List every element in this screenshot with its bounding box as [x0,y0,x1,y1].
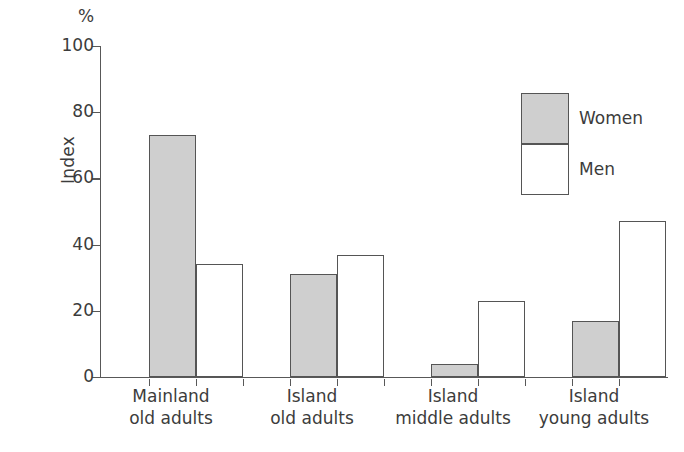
x-tick [525,379,526,386]
y-axis-unit-label: % [78,6,94,26]
x-tick [384,379,385,386]
y-tick-label-100: 100 [62,35,94,55]
x-category-label-line1: Island [378,386,528,408]
x-category-label-line1: Island [519,386,669,408]
x-category-label-line1: Island [237,386,387,408]
x-tick [337,379,338,386]
legend-label-women: Women [579,108,643,128]
x-category-label-island-old-adults: Island old adults [237,386,387,430]
legend-label-men: Men [579,159,615,179]
bar-women-island-old-adults [290,274,337,377]
x-tick [149,379,150,386]
y-tick-label-60: 60 [72,167,94,187]
x-category-label-line2: young adults [519,408,669,430]
legend-swatch-women [521,93,569,144]
y-tick-label-20: 20 [72,300,94,320]
bar-women-island-young-adults [572,321,619,377]
legend-swatch-men [521,144,569,195]
x-category-label-mainland-old-adults: Mainland old adults [96,386,246,430]
bar-men-island-old-adults [337,255,384,377]
x-tick [478,379,479,386]
x-tick [431,379,432,386]
bar-women-island-middle-adults [431,364,478,377]
chart-figure: % Index 100 80 60 40 20 0 [0,0,684,452]
y-axis-line [100,46,101,377]
x-tick [243,379,244,386]
x-tick [290,379,291,386]
y-tick-label-0: 0 [83,366,94,386]
x-tick [196,379,197,386]
x-tick [572,379,573,386]
y-tick-label-40: 40 [72,234,94,254]
bar-men-mainland-old-adults [196,264,243,377]
bar-men-island-young-adults [619,221,666,377]
x-category-label-line1: Mainland [96,386,246,408]
bar-women-mainland-old-adults [149,135,196,377]
plot-area: 100 80 60 40 20 0 [100,46,668,377]
y-tick-label-80: 80 [72,101,94,121]
x-category-label-island-middle-adults: Island middle adults [378,386,528,430]
x-category-label-island-young-adults: Island young adults [519,386,669,430]
x-category-label-line2: old adults [96,408,246,430]
bar-men-island-middle-adults [478,301,525,377]
x-tick [619,379,620,386]
x-category-label-line2: middle adults [378,408,528,430]
x-category-label-line2: old adults [237,408,387,430]
